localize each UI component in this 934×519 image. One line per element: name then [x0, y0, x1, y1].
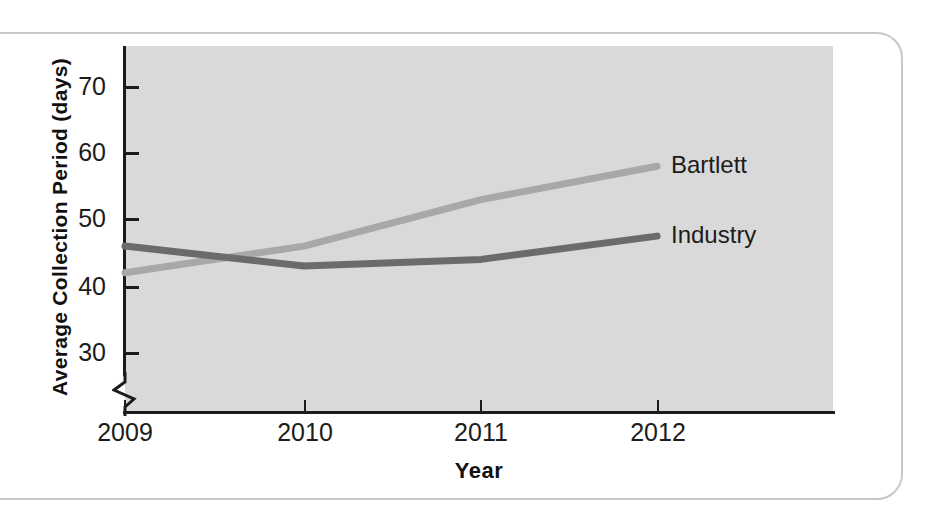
x-axis-line	[123, 411, 835, 414]
line-chart: 70 60 50 40 30 2009 2010 2011 2012 Avera…	[0, 0, 934, 519]
x-tick-2009	[124, 400, 126, 412]
x-tick-label-2010: 2010	[245, 420, 365, 445]
x-axis-title: Year	[125, 458, 833, 484]
x-tick-2011	[480, 400, 482, 412]
y-tick-70	[126, 86, 139, 89]
series-label-bartlett: Bartlett	[671, 153, 747, 177]
x-tick-label-2009: 2009	[65, 420, 185, 445]
y-axis-line	[123, 46, 126, 376]
x-tick-label-2012: 2012	[598, 420, 718, 445]
series-label-industry: Industry	[671, 223, 756, 247]
y-tick-60	[126, 152, 139, 155]
x-tick-2012	[657, 400, 659, 412]
y-tick-50	[126, 218, 139, 221]
y-tick-40	[126, 286, 139, 289]
x-tick-2010	[304, 400, 306, 412]
y-axis-title: Average Collection Period (days)	[48, 47, 72, 407]
x-tick-label-2011: 2011	[421, 420, 541, 445]
y-tick-30	[126, 352, 139, 355]
